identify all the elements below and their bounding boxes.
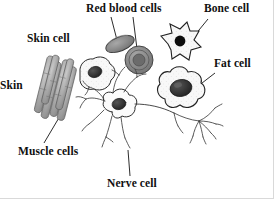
diagram-artwork bbox=[0, 0, 274, 199]
fat-cell-illustration bbox=[158, 67, 205, 108]
cell-types-diagram: Red blood cells Bone cell Skin cell Fat … bbox=[0, 0, 274, 199]
label-muscle-cells: Muscle cells bbox=[18, 146, 78, 158]
bone-cell-illustration bbox=[161, 22, 201, 60]
muscle-cells-illustration bbox=[33, 53, 79, 123]
skin-cell-illustration bbox=[80, 57, 115, 90]
leader-line-muscle-cells bbox=[44, 116, 60, 143]
leader-line-nerve-cell bbox=[128, 150, 130, 176]
bone-cell-nucleus bbox=[175, 36, 186, 47]
label-bone-cell: Bone cell bbox=[204, 3, 249, 15]
label-skin: Skin bbox=[0, 80, 23, 92]
label-nerve-cell: Nerve cell bbox=[107, 178, 157, 190]
label-red-blood-cells: Red blood cells bbox=[86, 3, 162, 15]
label-fat-cell: Fat cell bbox=[214, 58, 251, 70]
label-skin-cell: Skin cell bbox=[27, 33, 70, 45]
leader-line-red-blood-cell-1 bbox=[111, 17, 117, 40]
